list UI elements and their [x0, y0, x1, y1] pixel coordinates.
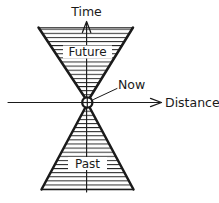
past-region-label: Past — [75, 157, 100, 171]
now-leader-line — [94, 89, 118, 100]
light-cone-diagram: Time Distance Future Past Now — [0, 0, 219, 203]
light-cone-figure: Time Distance Future Past Now — [0, 0, 219, 203]
now-label: Now — [118, 77, 145, 92]
time-axis-label: Time — [70, 4, 102, 19]
distance-axis-label: Distance — [165, 95, 219, 110]
future-cone-group — [30, 26, 142, 106]
future-region-label: Future — [68, 45, 106, 59]
past-cone-group — [34, 102, 146, 194]
